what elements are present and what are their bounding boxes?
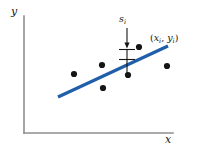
point-y-subscript-text: i <box>173 37 175 45</box>
data-point <box>125 72 131 78</box>
point-y-text: y <box>167 32 172 43</box>
residual-label: si <box>119 14 126 24</box>
x-axis-label: x <box>165 134 171 145</box>
point-coordinate-label: (xi, yi) <box>150 33 178 43</box>
residual-subscript-text: i <box>124 18 126 26</box>
paren-close-text: ) <box>175 32 179 43</box>
residual-arrow-head <box>124 43 129 49</box>
point-x-subscript-text: i <box>159 37 161 45</box>
data-point-labeled <box>136 44 142 50</box>
figure-canvas <box>0 0 197 149</box>
data-point <box>99 62 105 68</box>
data-point <box>71 71 77 77</box>
y-axis-label: y <box>11 6 17 17</box>
data-point <box>164 63 170 69</box>
regression-residual-figure: y x si (xi, yi) <box>0 0 197 149</box>
data-point <box>100 85 106 91</box>
